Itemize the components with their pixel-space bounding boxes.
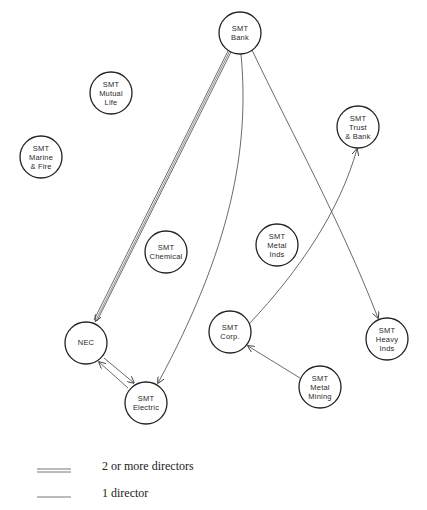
label-smt-marine-fire: SMT Marine & Fire <box>19 144 63 171</box>
label-smt-mutual-life: SMT Mutual Life <box>89 80 133 107</box>
nodes <box>20 12 408 424</box>
label-smt-metal-inds: SMT Metal Inds <box>255 232 299 259</box>
label-smt-bank: SMT Bank <box>218 24 262 42</box>
label-smt-heavy-inds: SMT Heavy Inds <box>365 326 409 353</box>
edge-metal-mining-to-corp <box>248 346 300 378</box>
legend-label-one-director: 1 director <box>102 486 148 501</box>
edge-bank-to-heavy-inds <box>252 50 378 318</box>
label-smt-electric: SMT Electric <box>124 394 168 412</box>
label-smt-metal-mining: SMT Metal Mining <box>298 374 342 401</box>
label-smt-chemical: SMT Chemical <box>144 243 188 261</box>
legend-label-two-or-more: 2 or more directors <box>102 459 194 474</box>
interlocking-directorates-diagram <box>0 0 427 510</box>
label-smt-corp: SMT Corp. <box>208 323 252 341</box>
label-smt-trust-bank: SMT Trust & Bank <box>336 114 380 141</box>
legend-lines <box>37 469 71 497</box>
label-nec: NEC <box>64 338 108 347</box>
